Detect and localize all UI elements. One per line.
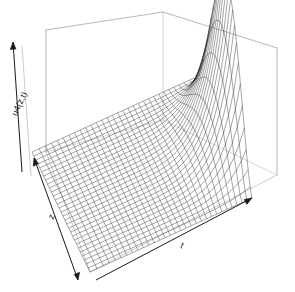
mesh-line-const-z [40, 67, 202, 168]
box-edge-floor-front-left [46, 152, 90, 272]
mesh-line-const-z [69, 0, 231, 228]
mesh-line-const-z [88, 187, 250, 268]
mesh-line-const-t [174, 87, 232, 207]
mesh-line-const-t [138, 103, 196, 223]
vertical-axis-arrow-icon [10, 42, 16, 50]
mesh-line-const-z [53, 0, 215, 196]
box-edge-top-right [163, 12, 277, 48]
mesh-line-const-z [90, 198, 252, 272]
mesh-line-const-z [78, 84, 240, 248]
vertical-axis-guide-line [22, 46, 31, 176]
plot-canvas: u4(z,t) z t [0, 0, 295, 292]
z-axis-label: z [46, 212, 57, 221]
mesh-line-const-z [46, 39, 208, 180]
mesh-line-const-z [32, 78, 194, 152]
surface-mesh [32, 0, 252, 272]
mesh-line-const-z [44, 49, 206, 176]
mesh-line-const-t [128, 108, 186, 228]
mesh-line-const-t [123, 111, 181, 231]
z-axis [33, 158, 79, 280]
mesh-line-const-z [71, 10, 233, 232]
box-edge-floor-front-right [90, 175, 277, 272]
z-axis-line [34, 158, 78, 280]
mesh-line-const-z [67, 0, 229, 224]
t-axis-label: t [179, 240, 186, 250]
surface-plot-figure: u4(z,t) z t [0, 0, 295, 292]
mesh-line-const-z [61, 0, 223, 212]
mesh-line-const-z [36, 78, 198, 160]
mesh-line-const-z [34, 80, 196, 156]
plot-bounding-box [46, 12, 277, 272]
box-edge-top-left [46, 12, 163, 30]
z-axis-arrow-tail-icon [74, 272, 79, 280]
